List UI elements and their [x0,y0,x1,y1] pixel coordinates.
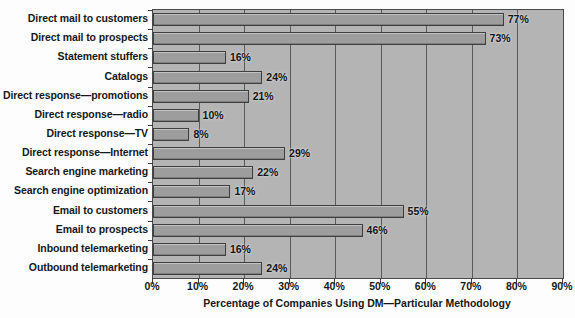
y-axis-tick [148,259,153,260]
bar-value-label: 22% [257,166,278,179]
bar [153,32,486,45]
plot-area: 77%73%16%24%21%10%8%29%22%17%55%46%16%24… [152,9,564,279]
category-label: Direct mail to prospects [0,32,148,43]
bar-value-label: 73% [490,32,511,45]
y-axis-tick [148,106,153,107]
category-label: Statement stuffers [0,51,148,62]
bar [153,13,504,26]
x-axis-title: Percentage of Companies Using DM—Particu… [152,297,562,309]
gridline [426,10,427,278]
gridline [517,10,518,278]
x-axis-tick-label: 30% [278,280,299,292]
x-axis-tick-label: 10% [187,280,208,292]
gridline [472,10,473,278]
y-axis-tick [148,144,153,145]
bar [153,109,199,122]
y-axis-tick [148,29,153,30]
category-label: Direct response—Internet [0,147,148,158]
category-label: Catalogs [0,71,148,82]
bar [153,243,226,256]
bar [153,262,262,275]
category-label: Direct response—TV [0,128,148,139]
bar [153,147,285,160]
y-axis-tick [148,221,153,222]
y-axis-tick [148,10,153,11]
x-axis-tick-label: 50% [369,280,390,292]
y-axis-tick [148,182,153,183]
x-axis-tick-label: 60% [415,280,436,292]
category-axis-labels: Direct mail to customersDirect mail to p… [0,9,148,277]
y-axis-tick [148,163,153,164]
bar-value-label: 10% [203,109,224,122]
bar [153,71,262,84]
category-label: Direct response—radio [0,109,148,120]
gridline [335,10,336,278]
bar [153,51,226,64]
y-axis-tick [148,87,153,88]
bar-value-label: 16% [230,51,251,64]
y-axis-tick [148,201,153,202]
category-label: Inbound telemarketing [0,243,148,254]
bar-value-label: 24% [266,71,287,84]
category-label: Outbound telemarketing [0,262,148,273]
category-label: Search engine optimization [0,185,148,196]
category-label: Direct response—promotions [0,90,148,101]
bar-value-label: 8% [193,128,208,141]
bar-value-label: 16% [230,243,251,256]
bar [153,90,249,103]
bar-value-label: 24% [266,262,287,275]
y-axis-tick [148,67,153,68]
bar-value-label: 46% [367,224,388,237]
gridline [381,10,382,278]
x-axis-tick-label: 40% [324,280,345,292]
x-axis-tick-label: 70% [460,280,481,292]
bar-value-label: 21% [253,90,274,103]
x-axis-tick-label: 90% [551,280,572,292]
category-label: Email to prospects [0,224,148,235]
gridline [199,10,200,278]
category-label: Email to customers [0,205,148,216]
y-axis-tick [148,125,153,126]
x-axis-tick-label: 80% [506,280,527,292]
bar-value-label: 77% [508,13,529,26]
y-axis-tick [148,240,153,241]
gridline [290,10,291,278]
y-axis-tick [148,48,153,49]
bar-value-label: 55% [408,205,429,218]
bar [153,128,189,141]
bar-chart-figure: Direct mail to customersDirect mail to p… [0,0,575,318]
bar-value-label: 17% [234,185,255,198]
x-axis-tick-label: 20% [233,280,254,292]
bar [153,185,230,198]
category-label: Direct mail to customers [0,13,148,24]
category-label: Search engine marketing [0,166,148,177]
bar [153,224,363,237]
bar [153,166,253,179]
bar [153,205,404,218]
bar-value-label: 29% [289,147,310,160]
x-axis-tick-label: 0% [144,280,159,292]
